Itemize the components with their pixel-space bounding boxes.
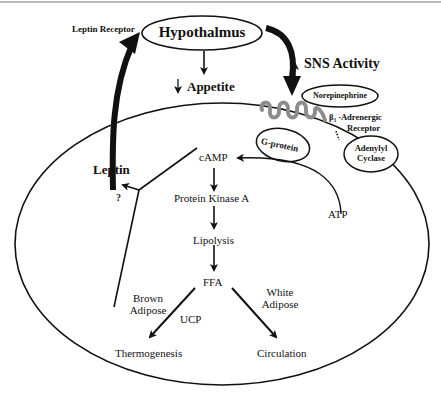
sns-activity-arrow xyxy=(266,28,293,78)
leptin-label: Leptin xyxy=(93,163,130,176)
brown-adipose-label-line2: Adipose xyxy=(123,305,173,316)
norepinephrine-label: Norepinephrine xyxy=(303,92,377,100)
thermogenesis-label: Thermogenesis xyxy=(115,348,182,359)
adenylyl-cyclase-label-line2: Cyclase xyxy=(345,154,397,163)
g-protein-link xyxy=(336,131,339,140)
white-adipose-label-line2: Adipose xyxy=(255,299,305,310)
lipolysis-label: Lipolysis xyxy=(193,235,234,246)
leptin-receptor-label: Leptin Receptor xyxy=(72,25,135,34)
ffa-label: FFA xyxy=(203,277,222,288)
atp-label: ATP xyxy=(328,209,348,220)
appetite-label: Appetite xyxy=(187,80,235,93)
leptin-pathway-diagram: Leptin Receptor Hypothalmus Appetite SNS… xyxy=(0,0,441,397)
sns-activity-label: SNS Activity xyxy=(304,57,380,71)
white-adipose-label-line1: White xyxy=(255,287,305,298)
brown-adipose-branch-line xyxy=(114,190,139,307)
brown-adipose-label-line1: Brown xyxy=(123,293,173,304)
question-label: ? xyxy=(116,193,121,203)
atp-to-camp-arrow xyxy=(238,158,341,214)
b3-receptor-label-line2: Receptor xyxy=(347,124,380,133)
hypothalamus-label: Hypothalmus xyxy=(150,25,254,40)
branch-to-leptin-arrow xyxy=(123,185,139,190)
b3-receptor-label-line1: β₃ -Adrenergic xyxy=(329,113,382,122)
camp-label: cAMP xyxy=(199,152,228,163)
protein-kinase-a-label: Protein Kinase A xyxy=(174,193,249,204)
camp-to-branch-line xyxy=(139,148,197,190)
adenylyl-cyclase-label-line1: Adenylyl xyxy=(345,144,397,153)
circulation-label: Circulation xyxy=(257,348,307,359)
ucp-label: UCP xyxy=(180,314,201,325)
